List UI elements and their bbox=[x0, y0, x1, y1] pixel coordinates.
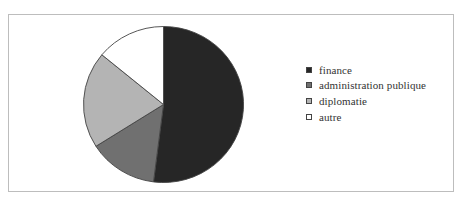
pie-slices bbox=[83, 26, 243, 182]
pie-slice-finance bbox=[153, 26, 243, 182]
legend-item-diplomatie: diplomatie bbox=[306, 93, 426, 109]
legend-swatch-icon bbox=[306, 114, 312, 120]
legend-swatch-icon bbox=[306, 98, 312, 104]
legend-item-finance: finance bbox=[306, 62, 426, 78]
pie-chart bbox=[82, 25, 245, 184]
legend: finance administration publique diplomat… bbox=[306, 62, 426, 124]
legend-label: administration publique bbox=[319, 79, 426, 91]
legend-swatch-icon bbox=[306, 82, 312, 88]
legend-label: autre bbox=[319, 111, 341, 123]
legend-swatch-icon bbox=[306, 67, 312, 73]
legend-item-administration-publique: administration publique bbox=[306, 78, 426, 94]
legend-label: diplomatie bbox=[319, 95, 367, 107]
legend-label: finance bbox=[319, 64, 352, 76]
legend-item-autre: autre bbox=[306, 109, 426, 125]
